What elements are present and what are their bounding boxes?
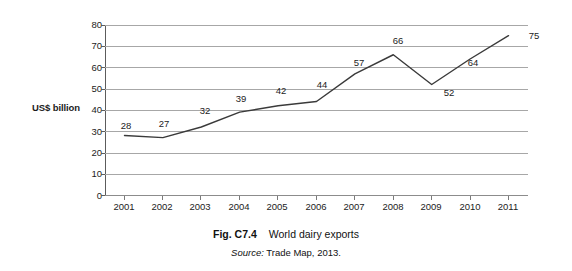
point-label-2003: 32 [193,105,217,116]
point-label-2010: 64 [461,57,485,68]
point-label-2011: 75 [522,30,546,41]
figure-number: Fig. C7.4 [213,228,257,240]
point-label-2007: 57 [347,57,371,68]
point-label-2009: 52 [437,87,461,98]
point-label-2008: 66 [386,35,410,46]
figure-source: Source: Trade Map, 2013. [0,247,572,258]
point-label-2002: 27 [152,118,176,129]
figure-title: World dairy exports [269,228,359,240]
figure-world-dairy-exports: US$ billion 80 70 60 50 40 30 20 10 0 [0,0,572,271]
source-label: Source: [231,247,264,258]
data-series-line [0,0,572,222]
figure-caption: Fig. C7.4World dairy exports [0,228,572,240]
point-label-2005: 42 [269,85,293,96]
point-label-2004: 39 [229,93,253,104]
line-chart: US$ billion 80 70 60 50 40 30 20 10 0 [0,0,572,222]
source-text: Trade Map, 2013. [266,247,341,258]
point-label-2006: 44 [310,79,334,90]
point-label-2001: 28 [114,120,138,131]
